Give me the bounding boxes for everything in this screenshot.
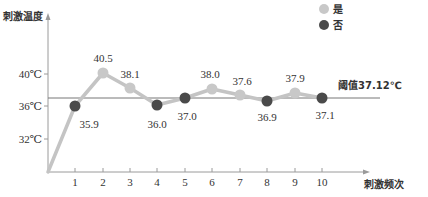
x-tick-label: 10: [317, 176, 329, 188]
x-tick-label: 6: [209, 176, 215, 188]
data-label: 38.1: [120, 68, 139, 80]
legend: 是 否: [319, 4, 343, 31]
data-label: 37.0: [177, 110, 197, 122]
y-tick-label: 32℃: [19, 133, 42, 145]
legend-yes-label: 是: [332, 4, 343, 15]
x-axis-arrow-icon: [363, 170, 370, 175]
x-tick-label: 7: [237, 176, 243, 188]
x-tick-label: 4: [154, 176, 160, 188]
legend-no-marker-icon: [319, 20, 329, 30]
line-chart: 40℃ 36℃ 32℃ 刺激温度 1 2 3 4 5 6 7 8 9 10 刺激…: [0, 0, 428, 197]
data-label: 40.5: [93, 52, 113, 64]
x-tick-label: 5: [182, 176, 188, 188]
y-tick-label: 40℃: [19, 68, 42, 80]
data-label: 37.1: [315, 109, 334, 121]
x-axis-title: 刺激频次: [363, 178, 404, 190]
data-point-yes: [125, 83, 136, 94]
threshold: 阈值37.12℃: [48, 79, 402, 98]
data-point-no: [262, 96, 273, 107]
data-point-no: [152, 100, 163, 111]
data-point-yes: [98, 68, 109, 79]
y-tick-label: 36℃: [19, 100, 42, 112]
data-point-yes: [235, 90, 246, 101]
x-tick-label: 3: [127, 176, 133, 188]
y-axis: 40℃ 36℃ 32℃ 刺激温度: [2, 10, 51, 172]
x-tick-label: 8: [264, 176, 270, 188]
x-tick-label: 1: [72, 176, 78, 188]
data-label: 36.0: [147, 118, 167, 130]
data-label: 37.6: [232, 75, 252, 87]
data-label: 38.0: [200, 68, 220, 80]
data-point-no: [180, 93, 191, 104]
x-tick-label: 2: [100, 176, 106, 188]
legend-yes-marker-icon: [319, 4, 329, 14]
y-axis-arrow-icon: [46, 13, 51, 20]
x-tick-label: 9: [292, 176, 298, 188]
data-label: 36.9: [257, 111, 277, 123]
data-label: 37.9: [285, 72, 305, 84]
data-point-yes: [290, 88, 301, 99]
x-axis: 1 2 3 4 5 6 7 8 9 10 刺激频次: [48, 168, 404, 190]
y-axis-title: 刺激温度: [2, 10, 44, 22]
legend-no-label: 否: [332, 20, 343, 31]
data-point-no: [70, 101, 81, 112]
data-point-no: [317, 93, 328, 104]
data-label: 35.9: [79, 118, 99, 130]
data-point-yes: [207, 84, 218, 95]
threshold-label: 阈值37.12℃: [338, 79, 402, 91]
